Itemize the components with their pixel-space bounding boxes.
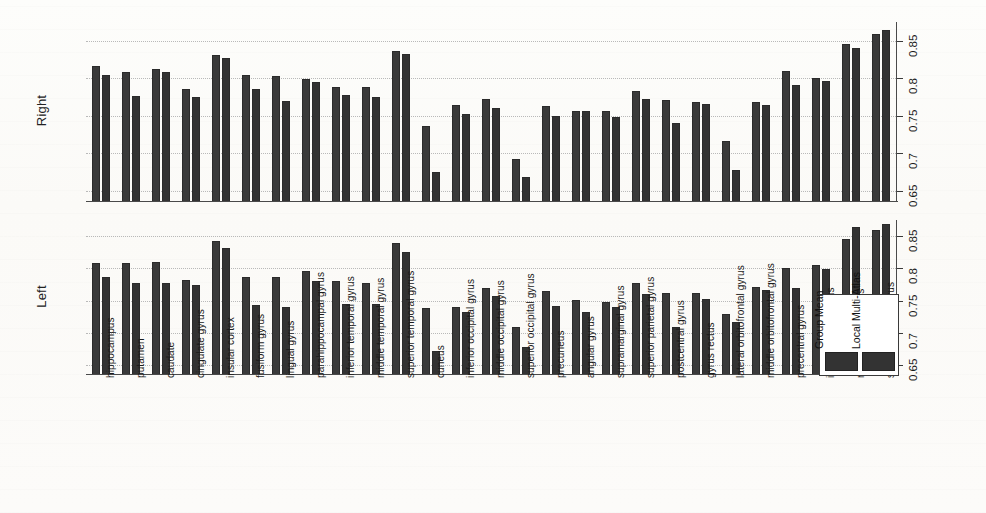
x-tick-label: middle orbitofrontal gyrus xyxy=(765,263,776,378)
bar xyxy=(362,283,370,375)
bar xyxy=(152,69,160,202)
bar xyxy=(122,263,130,375)
y-axis-tick xyxy=(897,191,903,192)
y-axis-tick xyxy=(897,153,903,154)
bar xyxy=(312,82,320,202)
x-tick-label: supramarginal gyrus xyxy=(615,286,626,379)
bar xyxy=(792,85,800,202)
bar xyxy=(542,106,550,202)
bar xyxy=(452,307,460,375)
bar xyxy=(762,105,770,202)
x-tick-label: postcentral gyrus xyxy=(675,300,686,378)
bar xyxy=(182,280,190,375)
bar xyxy=(582,111,590,202)
bar xyxy=(212,55,220,202)
bar xyxy=(732,170,740,202)
bar xyxy=(372,97,380,202)
x-tick-label: middle occipital gyrus xyxy=(495,280,506,378)
bar xyxy=(782,71,790,202)
bar xyxy=(722,314,730,375)
x-tick-label: parahippocampal gyrus xyxy=(315,272,326,378)
bar xyxy=(422,308,430,375)
x-tick-label: inferior temporal gyrus xyxy=(345,276,356,378)
x-axis-left-panel xyxy=(86,374,898,375)
bar xyxy=(812,78,820,203)
legend-label-group-mean: Group Mean xyxy=(813,291,825,349)
bar xyxy=(822,81,830,203)
bar xyxy=(92,263,100,375)
legend-swatch-group-mean xyxy=(825,352,858,371)
legend: Group Mean Local Multi-Atlas xyxy=(819,294,899,376)
x-tick-label: precentral gyrus xyxy=(795,305,806,378)
bar xyxy=(782,268,790,375)
bar xyxy=(342,95,350,202)
x-axis-right-panel xyxy=(86,201,898,202)
bar xyxy=(482,99,490,202)
bar xyxy=(132,96,140,203)
x-tick-label: fusiform gyrus xyxy=(255,314,266,378)
bar xyxy=(452,105,460,202)
bar xyxy=(662,293,670,375)
x-tick-label: precuneus xyxy=(555,330,566,378)
y-axis-right-panel xyxy=(896,22,897,202)
x-tick-label: superior temporal gyrus xyxy=(405,271,416,378)
bar xyxy=(662,100,670,202)
bars-right xyxy=(86,22,896,202)
bar xyxy=(602,302,610,375)
y-tick-label: 0.65 xyxy=(907,359,919,381)
bar xyxy=(302,271,310,375)
bar xyxy=(272,277,280,375)
bar xyxy=(602,111,610,203)
x-tick-label: lingual gyrus xyxy=(285,321,296,378)
x-tick-label: superior occipital gyrus xyxy=(525,273,536,378)
bar xyxy=(282,101,290,202)
y-axis-tick xyxy=(897,268,903,269)
x-tick-label: gyrus rectus xyxy=(705,322,716,378)
bar xyxy=(542,291,550,375)
y-tick-label: 0.85 xyxy=(907,34,919,56)
x-tick-label: putamen xyxy=(135,338,146,378)
x-tick-label: inferior occipital gyrus xyxy=(465,279,476,378)
bar xyxy=(692,102,700,202)
bar xyxy=(302,79,310,202)
x-axis-category-labels: hippocampusputamencaudatecingulate gyrus… xyxy=(86,378,896,513)
bar xyxy=(212,241,220,375)
y-tick-label: 0.75 xyxy=(907,109,919,131)
bar xyxy=(192,97,200,202)
bar xyxy=(842,44,850,202)
y-axis-tick xyxy=(897,78,903,79)
bar xyxy=(152,262,160,375)
x-tick-label: insular cortex xyxy=(225,317,236,378)
bar xyxy=(752,287,760,375)
bar xyxy=(332,281,340,375)
bar xyxy=(162,72,170,203)
y-tick-label: 0.75 xyxy=(907,294,919,316)
bar xyxy=(242,277,250,375)
bar xyxy=(572,111,580,203)
bar xyxy=(492,108,500,202)
bar xyxy=(222,58,230,202)
bar xyxy=(632,91,640,202)
bar xyxy=(252,89,260,202)
x-tick-label: cuneus xyxy=(435,345,446,378)
bar xyxy=(572,300,580,375)
bar xyxy=(432,172,440,202)
bar xyxy=(392,51,400,203)
bar-chart-figure: Right Left 0.650.70.750.80.850.650.70.75… xyxy=(0,0,986,513)
bar xyxy=(642,99,650,202)
x-tick-label: lateral orbitofrontal gyrus xyxy=(735,265,746,378)
y-tick-label: 0.85 xyxy=(907,230,919,252)
legend-label-local-multi-atlas: Local Multi-Atlas xyxy=(850,272,862,349)
bar xyxy=(362,87,370,203)
bar xyxy=(872,34,880,202)
bar xyxy=(422,126,430,203)
x-tick-label: cingulate gyrus xyxy=(195,309,206,378)
x-tick-label: hippocampus xyxy=(105,317,116,378)
y-axis-tick xyxy=(897,116,903,117)
bar xyxy=(522,177,530,202)
bar xyxy=(512,327,520,375)
bar xyxy=(182,89,190,202)
panel-right xyxy=(86,22,896,202)
plot-area-right xyxy=(86,22,896,202)
bar xyxy=(882,30,890,202)
